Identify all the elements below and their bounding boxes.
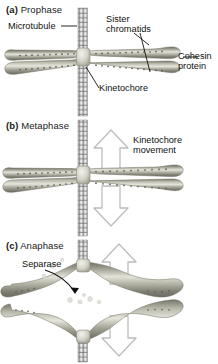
label-cohesin-protein-line1: Cohesin bbox=[178, 51, 212, 61]
label-kinetochore-movement-line2: movement bbox=[133, 145, 176, 155]
label-separase: Separase bbox=[22, 259, 61, 269]
label-cohesin-protein-line2: protein bbox=[178, 61, 206, 71]
sister-chromatid-lower bbox=[3, 177, 183, 193]
arrow-down-icon bbox=[94, 186, 128, 226]
sister-chromatid-upper bbox=[3, 165, 183, 178]
kinetochore-icon bbox=[77, 48, 91, 66]
kinetochore-icon-upper bbox=[77, 259, 91, 272]
label-microtubule: Microtubule bbox=[8, 21, 56, 31]
label-sister-chromatids: Sister chromatids bbox=[106, 14, 170, 35]
kinetochore-icon-lower bbox=[77, 330, 91, 343]
panel-metaphase: (b) Metaphase bbox=[0, 118, 218, 238]
label-cohesin-protein: Cohesin protein bbox=[178, 51, 218, 72]
leader-kinetochore bbox=[86, 67, 99, 88]
sister-chromatid-upper bbox=[5, 47, 180, 60]
label-sister-chromatids-line1: Sister bbox=[106, 14, 130, 24]
panel-prophase: (a) Prophase bbox=[0, 0, 218, 118]
panel-anaphase: (c) Anaphase bbox=[0, 238, 218, 364]
anaphase-figure bbox=[0, 238, 218, 364]
label-sister-chromatids-line2: chromatids bbox=[106, 24, 151, 34]
separated-chromatid-lower bbox=[1, 300, 183, 340]
label-kinetochore: Kinetochore bbox=[99, 83, 148, 93]
sister-chromatid-lower bbox=[5, 59, 180, 75]
arrow-up-icon bbox=[94, 130, 128, 170]
label-kinetochore-movement: Kinetochore movement bbox=[133, 135, 213, 156]
kinetochore-icon bbox=[77, 166, 91, 184]
label-kinetochore-movement-line1: Kinetochore bbox=[133, 135, 182, 145]
